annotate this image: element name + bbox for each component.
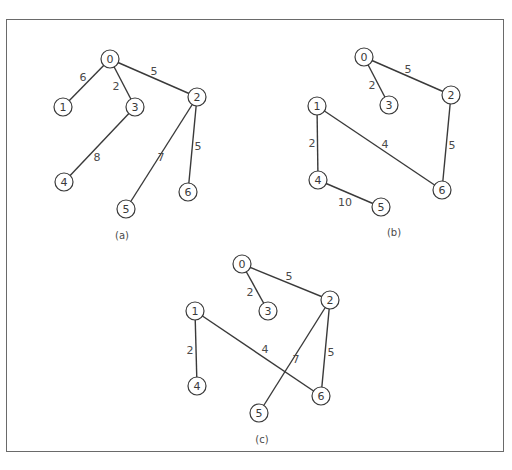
node-label: 0 [361, 51, 368, 64]
node-label: 3 [265, 305, 272, 318]
edge-1-4 [195, 311, 197, 386]
graph-figure: 6258750123456(a) 25245100123456(b) 25247… [0, 0, 512, 470]
graph-b: 25245100123456(b) [308, 48, 460, 238]
edge-weight-label: 8 [94, 151, 101, 164]
node-6: 6 [312, 387, 330, 405]
edge-1-4 [317, 106, 318, 180]
graph-caption: (a) [115, 230, 129, 241]
graph-caption: (c) [255, 434, 268, 445]
edge-weight-label: 10 [338, 196, 352, 209]
edge-1-6 [317, 106, 442, 190]
edge-weight-label: 2 [187, 344, 194, 357]
node-1: 1 [54, 98, 72, 116]
edge-weight-label: 5 [449, 139, 456, 152]
node-label: 1 [192, 305, 199, 318]
node-6: 6 [433, 181, 451, 199]
node-label: 5 [123, 203, 130, 216]
node-2: 2 [442, 86, 460, 104]
edge-weight-label: 4 [262, 343, 269, 356]
node-label: 2 [327, 294, 334, 307]
node-label: 1 [60, 101, 67, 114]
node-label: 3 [132, 101, 139, 114]
node-1: 1 [308, 97, 326, 115]
edge-weight-label: 4 [382, 138, 389, 151]
node-5: 5 [117, 200, 135, 218]
node-2: 2 [188, 88, 206, 106]
node-label: 3 [386, 99, 393, 112]
node-6: 6 [179, 183, 197, 201]
node-2: 2 [321, 291, 339, 309]
node-3: 3 [259, 302, 277, 320]
graph-a: 6258750123456(a) [54, 50, 206, 241]
edge-weight-label: 6 [80, 71, 87, 84]
node-0: 0 [355, 48, 373, 66]
node-label: 4 [61, 176, 68, 189]
edge-weight-label: 2 [309, 137, 316, 150]
node-4: 4 [55, 173, 73, 191]
graph-caption: (b) [387, 227, 401, 238]
edge-weight-label: 5 [405, 63, 412, 76]
node-label: 4 [315, 174, 322, 187]
edge-weight-label: 5 [151, 65, 158, 78]
node-label: 5 [378, 201, 385, 214]
edge-weight-label: 2 [113, 80, 120, 93]
node-4: 4 [309, 171, 327, 189]
edge-weight-label: 5 [328, 346, 335, 359]
node-label: 6 [439, 184, 446, 197]
node-3: 3 [380, 96, 398, 114]
edge-1-6 [195, 311, 321, 396]
node-label: 5 [256, 407, 263, 420]
node-label: 0 [239, 258, 246, 271]
node-label: 6 [318, 390, 325, 403]
node-5: 5 [250, 404, 268, 422]
edge-0-1 [63, 59, 110, 107]
edge-weight-label: 5 [286, 270, 293, 283]
edge-weight-label: 2 [247, 286, 254, 299]
node-label: 6 [185, 186, 192, 199]
node-4: 4 [188, 377, 206, 395]
node-label: 0 [107, 53, 114, 66]
node-5: 5 [372, 198, 390, 216]
graph-c: 2524750123456(c) [186, 255, 339, 445]
edge-weight-label: 7 [293, 353, 300, 366]
node-0: 0 [233, 255, 251, 273]
edge-weight-label: 5 [195, 140, 202, 153]
node-label: 2 [194, 91, 201, 104]
edge-3-4 [64, 107, 135, 182]
edge-weight-label: 2 [369, 79, 376, 92]
node-label: 2 [448, 89, 455, 102]
node-0: 0 [101, 50, 119, 68]
node-label: 1 [314, 100, 321, 113]
edge-weight-label: 7 [158, 151, 165, 164]
node-1: 1 [186, 302, 204, 320]
node-label: 4 [194, 380, 201, 393]
node-3: 3 [126, 98, 144, 116]
